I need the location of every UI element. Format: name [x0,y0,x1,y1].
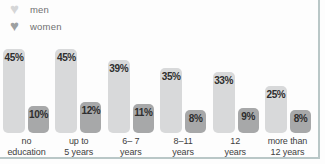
value-label: 8% [290,110,311,124]
frame-right-border [318,0,320,159]
value-label: 39% [108,60,130,74]
x-axis-labels: noeducationup to5 years6– 7years8–11year… [3,136,311,157]
bar-group: 35%8% [160,68,206,133]
men-bar: 39% [108,60,130,133]
bar-group: 45%10% [3,49,49,133]
legend-item-men: ♥ men [7,1,62,17]
men-bar: 45% [3,49,25,133]
men-bar: 35% [160,68,182,133]
value-label: 25% [265,86,287,100]
value-label: 11% [133,104,154,118]
heart-icon: ♥ [7,2,22,16]
plot-area: 45%10%45%12%39%11%35%8%33%9%25%8% [3,45,311,133]
value-label: 33% [213,72,235,86]
value-label: 45% [55,49,77,63]
value-label: 9% [238,108,259,122]
heart-icon: ♥ [7,19,22,33]
value-label: 8% [185,110,206,124]
women-bar: 8% [290,110,311,133]
value-label: 12% [80,102,101,116]
legend-label-men: men [30,4,49,15]
bar-group: 25%8% [265,86,311,133]
x-axis-label: 12years [212,136,259,157]
women-bar: 11% [133,104,154,133]
women-bar: 12% [80,102,101,133]
value-label: 10% [28,106,49,120]
men-bar: 33% [213,72,235,133]
frame-bottom-border [0,157,320,159]
women-bar: 10% [28,106,49,133]
women-bar: 8% [185,110,206,133]
bar-group: 33%9% [213,72,259,133]
x-axis-label: up to5 years [55,136,102,157]
men-bar: 25% [265,86,287,133]
value-label: 35% [160,68,182,82]
value-label: 45% [3,49,25,63]
x-axis-label: 8–11years [160,136,207,157]
x-axis-label: more than12 years [264,136,311,157]
x-axis-label: noeducation [3,136,50,157]
women-bar: 9% [238,108,259,133]
x-axis-label: 6– 7years [107,136,154,157]
men-bar: 45% [55,49,77,133]
legend: ♥ men ♥ women [7,1,62,35]
bar-chart: ♥ men ♥ women 45%10%45%12%39%11%35%8%33%… [0,0,325,164]
legend-label-women: women [30,21,62,32]
legend-item-women: ♥ women [7,18,62,34]
bar-group: 45%12% [55,49,101,133]
bar-group: 39%11% [108,60,154,133]
